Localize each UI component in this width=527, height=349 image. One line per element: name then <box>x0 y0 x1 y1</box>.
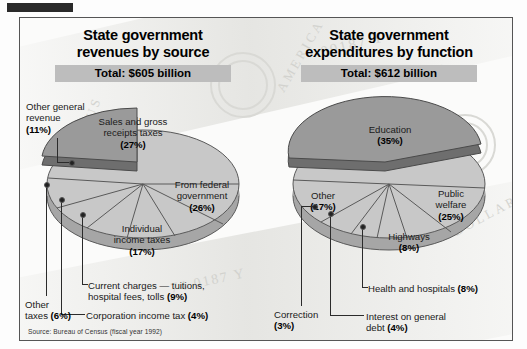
total-banner-expenditures: Total: $612 billion <box>301 65 477 82</box>
slice-label-highways: Highways(8%) <box>370 231 448 254</box>
slice-label-other-general: Other generalrevenue(11%) <box>26 101 118 135</box>
page-background: 00187 Y 7 74 0187 Y E PLURIBUS AMERICA D… <box>0 0 527 349</box>
leader-dot-interest <box>328 211 334 217</box>
leader-line-corporation <box>61 199 62 314</box>
slice-label-education: Education(35%) <box>344 124 436 147</box>
leader-line-current-charges <box>82 284 88 285</box>
chart-title-revenues: State government revenues by source <box>20 27 266 61</box>
leader-dot-other-taxes <box>44 182 50 188</box>
chart-title-line2: expenditures by function <box>305 44 473 60</box>
slice-label-other: Other(17%) <box>288 190 358 213</box>
chart-panel-expenditures: State government expenditures by functio… <box>266 18 512 340</box>
slice-label-public-welfare: Publicwelfare(25%) <box>414 188 488 222</box>
leader-dot-health <box>360 224 366 230</box>
chart-title-line1: State government <box>83 27 202 43</box>
total-banner-revenues: Total: $605 billion <box>55 65 231 82</box>
leader-line-interest <box>330 213 331 315</box>
slice-label-corporation: Corporation income tax (4%) <box>86 310 256 321</box>
leader-line-current-charges <box>82 214 83 284</box>
leader-line-other-taxes <box>46 184 47 296</box>
chart-title-line2: revenues by source <box>77 44 210 60</box>
chart-title-expenditures: State government expenditures by functio… <box>266 27 512 61</box>
leader-dot-correction <box>312 204 318 210</box>
source-note: Source: Bureau of Census (fiscal year 19… <box>28 328 162 335</box>
chart-title-line1: State government <box>329 27 448 43</box>
slice-label-correction: Correction(3%) <box>274 309 348 332</box>
slice-label-interest: Interest on generaldebt (4%) <box>366 311 486 334</box>
leader-line-health <box>362 287 368 288</box>
masthead-bar <box>7 3 73 12</box>
leader-line-correction <box>301 206 313 207</box>
slice-label-current-charges: Current charges — tuitions,hospital fees… <box>88 280 256 303</box>
infographic-panel: 00187 Y 7 74 0187 Y E PLURIBUS AMERICA D… <box>19 17 513 341</box>
chart-panel-revenues: State government revenues by source Tota… <box>20 18 266 340</box>
leader-dot-corporation <box>59 197 65 203</box>
slice-label-federal: From federalgovernment(26%) <box>154 179 250 213</box>
leader-line-correction <box>301 206 302 306</box>
slice-label-health: Health and hospitals (8%) <box>368 283 513 294</box>
leader-line-health <box>362 226 363 287</box>
leader-dot-current-charges <box>80 212 86 218</box>
leader-line-other-general <box>57 138 58 162</box>
slice-label-individual: Individualincome taxes(17%) <box>96 223 188 257</box>
slice-label-other-taxes: Othertaxes (6%) <box>25 299 91 322</box>
leader-dot-other-general <box>69 160 75 166</box>
